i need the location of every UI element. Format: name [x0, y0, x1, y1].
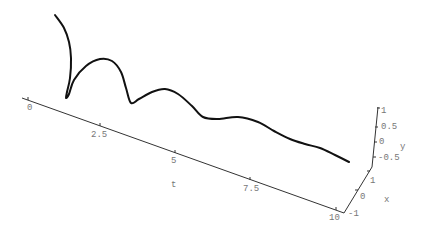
t-axis-ticks — [28, 97, 336, 210]
x-tick-0: 0 — [360, 192, 365, 202]
y-tick-0: 0 — [379, 137, 384, 147]
y-axis-label: y — [400, 142, 406, 152]
t-tick-0: 0 — [27, 103, 32, 113]
x-tick-neg1: -1 — [348, 209, 359, 219]
t-tick-5: 5 — [171, 156, 176, 166]
t-tick-7.5: 7.5 — [243, 184, 259, 194]
t-axis-label: t — [171, 180, 176, 190]
t-tick-10: 10 — [329, 213, 340, 223]
t-axis — [22, 98, 344, 213]
y-tick-1: 1 — [381, 106, 386, 116]
plot-3d: 0 2.5 5 7.5 10 t -1 0 1 x 1 0.5 0 -0.5 y — [0, 0, 421, 237]
y-tick-neg0.5: -0.5 — [378, 153, 400, 163]
t-tick-2.5: 2.5 — [91, 130, 107, 140]
y-tick-0.5: 0.5 — [381, 122, 397, 132]
x-tick-1: 1 — [370, 176, 375, 186]
x-axis-label: x — [384, 195, 389, 205]
